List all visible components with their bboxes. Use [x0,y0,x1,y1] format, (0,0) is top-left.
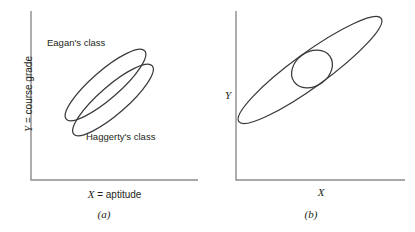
panel-a: Eagan's class Haggerty's class X = aptit… [0,0,208,232]
panel-a-y-unit: = course grade [23,56,34,126]
annotation-haggertys-class: Haggerty's class [86,131,155,142]
panel-a-y-axis-title: Y = course grade [22,14,34,174]
panel-b-axes [236,11,405,180]
panel-b-y-symbol: Y [225,89,231,101]
panel-b-caption: (b) [207,208,415,220]
figure-container: Eagan's class Haggerty's class X = aptit… [0,0,415,232]
ellipse-compact-cloud [284,42,340,95]
panel-b-x-symbol: X [318,186,325,198]
panel-b-y-axis-title: Y [219,89,237,101]
ellipse-elongated-cloud [229,5,391,136]
panel-b: X Y (b) [207,0,415,232]
ellipse-eagans-class [57,40,154,129]
panel-a-caption: (a) [0,208,208,220]
panel-b-x-axis-title: X [236,186,406,198]
panel-a-x-unit: = aptitude [94,189,141,200]
annotation-eagans-class: Eagan's class [47,37,105,48]
panel-a-x-axis-title: X = aptitude [31,188,198,200]
panel-a-y-symbol: Y [22,126,34,132]
